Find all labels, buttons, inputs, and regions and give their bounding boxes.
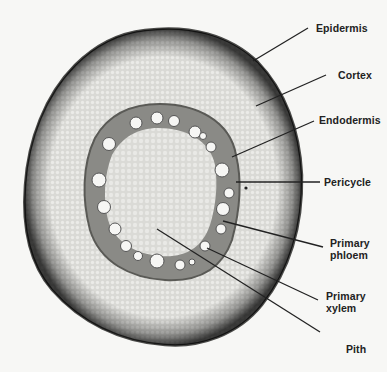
xylem-vessel (134, 252, 143, 261)
xylem-vessel (151, 112, 163, 124)
xylem-vessel (98, 201, 111, 214)
label-primary-xylem-line2: xylem (326, 302, 366, 314)
xylem-vessel (200, 133, 207, 140)
xylem-vessel (175, 260, 185, 270)
xylem-vessel (200, 241, 210, 251)
xylem-vessel (121, 241, 132, 252)
vascular-cylinder (85, 104, 248, 280)
xylem-vessel (92, 173, 106, 187)
label-primary-phloem-line2: phloem (330, 249, 370, 261)
xylem-vessel (206, 142, 216, 152)
label-endodermis: Endodermis (319, 114, 381, 126)
label-primary-phloem: Primary phloem (330, 237, 370, 261)
xylem-vessel (103, 138, 116, 151)
leader-line-epidermis (253, 28, 308, 61)
xylem-vessel (217, 203, 230, 216)
label-epidermis: Epidermis (316, 22, 368, 34)
label-primary-xylem: Primary xylem (326, 290, 366, 314)
label-primary-phloem-line1: Primary (330, 237, 370, 249)
xylem-vessel (169, 116, 180, 127)
xylem-vessel (150, 254, 164, 268)
xylem-vessel (130, 117, 142, 129)
specimen-speck (244, 186, 247, 189)
label-primary-xylem-line1: Primary (326, 290, 366, 302)
xylem-vessel (189, 259, 195, 265)
xylem-vessel (216, 224, 226, 234)
root-cross-section-diagram: Epidermis Cortex Endodermis Pericycle Pr… (0, 0, 387, 372)
label-pericycle: Pericycle (324, 176, 371, 188)
label-cortex: Cortex (338, 69, 372, 81)
label-pith: Pith (346, 343, 366, 355)
xylem-vessel (224, 188, 234, 198)
xylem-vessel (109, 223, 121, 235)
pith-region (105, 128, 216, 256)
xylem-vessel (215, 163, 229, 177)
